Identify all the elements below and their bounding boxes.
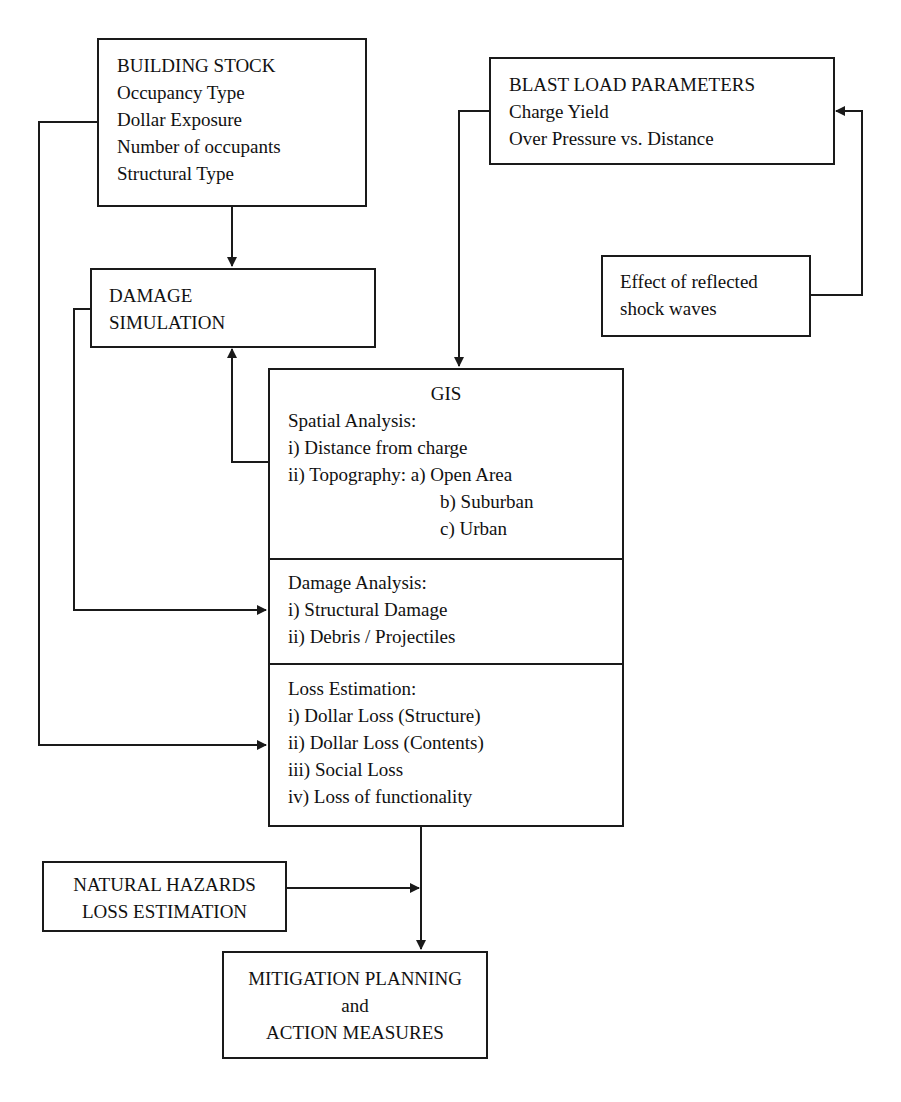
- spatial-item: i) Distance from charge: [288, 434, 622, 461]
- damage-simulation-box: DAMAGE SIMULATION: [90, 268, 376, 348]
- arrow-blast-to-gis: [459, 111, 489, 366]
- damage-item: ii) Debris / Projectiles: [288, 623, 622, 650]
- arrow-damage-sim-to-damage-analysis: [74, 309, 266, 610]
- spatial-heading: Spatial Analysis:: [288, 407, 622, 434]
- building-stock-box: BUILDING STOCK Occupancy Type Dollar Exp…: [97, 38, 367, 207]
- blast-load-title: BLAST LOAD PARAMETERS: [509, 71, 833, 98]
- blast-load-item: Over Pressure vs. Distance: [509, 125, 833, 152]
- damage-simulation-line: DAMAGE: [109, 282, 374, 309]
- gis-damage-section: Damage Analysis: i) Structural Damage ii…: [270, 558, 622, 665]
- loss-item: iii) Social Loss: [288, 756, 622, 783]
- blast-load-box: BLAST LOAD PARAMETERS Charge Yield Over …: [489, 57, 835, 165]
- loss-item: i) Dollar Loss (Structure): [288, 702, 622, 729]
- reflected-waves-line: Effect of reflected: [620, 268, 809, 295]
- building-stock-title: BUILDING STOCK: [117, 52, 365, 79]
- mitigation-line: ACTION MEASURES: [224, 1019, 486, 1046]
- gis-loss-section: Loss Estimation: i) Dollar Loss (Structu…: [270, 663, 622, 825]
- gis-title: GIS: [270, 380, 622, 407]
- loss-item: iv) Loss of functionality: [288, 783, 622, 810]
- building-stock-item: Occupancy Type: [117, 79, 365, 106]
- loss-item: ii) Dollar Loss (Contents): [288, 729, 622, 756]
- gis-spatial-section: GIS Spatial Analysis: i) Distance from c…: [270, 370, 622, 560]
- spatial-item: ii) Topography: a) Open Area: [288, 461, 622, 488]
- building-stock-item: Structural Type: [117, 160, 365, 187]
- blast-load-item: Charge Yield: [509, 98, 833, 125]
- mitigation-line: and: [224, 992, 486, 1019]
- gis-box: GIS Spatial Analysis: i) Distance from c…: [268, 368, 624, 827]
- natural-hazards-line: LOSS ESTIMATION: [44, 898, 285, 925]
- natural-hazards-box: NATURAL HAZARDS LOSS ESTIMATION: [42, 861, 287, 932]
- spatial-item: c) Urban: [288, 515, 622, 542]
- loss-heading: Loss Estimation:: [288, 675, 622, 702]
- mitigation-box: MITIGATION PLANNING and ACTION MEASURES: [222, 951, 488, 1059]
- reflected-waves-line: shock waves: [620, 295, 809, 322]
- mitigation-line: MITIGATION PLANNING: [224, 965, 486, 992]
- damage-heading: Damage Analysis:: [288, 569, 622, 596]
- damage-simulation-line: SIMULATION: [109, 309, 374, 336]
- building-stock-item: Number of occupants: [117, 133, 365, 160]
- natural-hazards-line: NATURAL HAZARDS: [44, 871, 285, 898]
- reflected-waves-box: Effect of reflected shock waves: [601, 255, 811, 337]
- damage-item: i) Structural Damage: [288, 596, 622, 623]
- building-stock-item: Dollar Exposure: [117, 106, 365, 133]
- spatial-item: b) Suburban: [288, 488, 622, 515]
- arrow-building-to-loss: [39, 122, 266, 745]
